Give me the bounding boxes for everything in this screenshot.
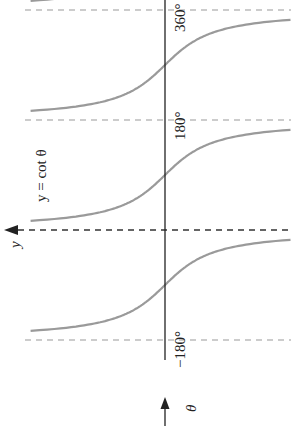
- cot-graph: 360° 180° −180° y = cot θ y θ: [0, 0, 291, 426]
- cot-branch-0: [31, 240, 291, 331]
- cot-branch-2: [31, 20, 291, 111]
- cot-branch-1: [31, 130, 291, 221]
- y-axis-arrow-icon: [4, 225, 18, 235]
- tick-label-minus-180: −180°: [172, 331, 188, 368]
- tick-label-360: 360°: [172, 4, 188, 33]
- tick-label-180: 180°: [172, 112, 188, 141]
- y-axis-label: y: [7, 241, 23, 250]
- theta-axis-label: θ: [183, 404, 199, 412]
- theta-axis-arrow-icon: [161, 397, 170, 409]
- function-label: y = cot θ: [33, 149, 49, 202]
- cot-branch-3: [31, 0, 108, 1]
